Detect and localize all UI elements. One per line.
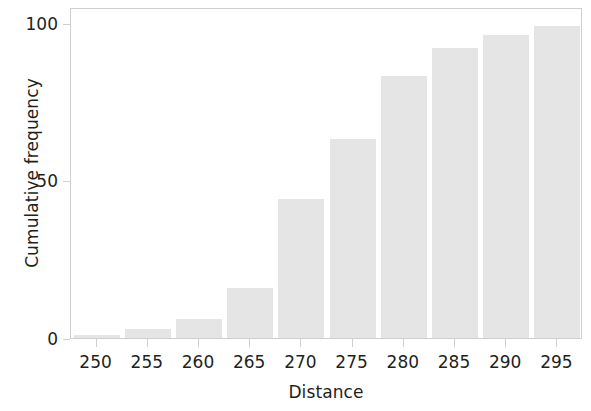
y-tick-mark: [63, 181, 70, 182]
bar: [534, 26, 580, 338]
bar: [227, 288, 273, 338]
bar: [278, 199, 324, 338]
x-tick-mark: [147, 339, 148, 347]
x-axis-title: Distance: [70, 382, 582, 402]
x-tick-mark: [505, 339, 506, 347]
y-tick-mark: [63, 339, 70, 340]
cumulative-frequency-chart: Cumulative frequency 050100 250255260265…: [0, 0, 591, 411]
x-tick-mark: [454, 339, 455, 347]
x-tick-label: 295: [526, 352, 586, 372]
x-tick-mark: [556, 339, 557, 347]
bar: [330, 139, 376, 338]
plot-area: [70, 8, 582, 339]
bar: [432, 48, 478, 338]
x-tick-mark: [249, 339, 250, 347]
bars-layer: [71, 9, 581, 338]
x-tick-mark: [403, 339, 404, 347]
y-tick-label: 0: [0, 329, 58, 349]
bar: [125, 329, 171, 338]
x-tick-mark: [352, 339, 353, 347]
x-tick-mark: [96, 339, 97, 347]
bar: [176, 319, 222, 338]
x-tick-mark: [300, 339, 301, 347]
y-tick-label: 50: [0, 171, 58, 191]
x-tick-mark: [198, 339, 199, 347]
bar: [483, 35, 529, 338]
y-tick-label: 100: [0, 14, 58, 34]
bar: [381, 76, 427, 338]
y-tick-mark: [63, 24, 70, 25]
bar: [74, 335, 120, 338]
